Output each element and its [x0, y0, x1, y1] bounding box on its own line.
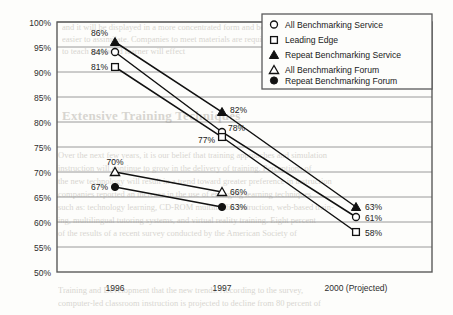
ytick-label-70: 70% [34, 168, 51, 178]
point-label-66: 66% [230, 187, 247, 197]
point-label-61: 61% [365, 213, 382, 223]
point-label-77: 77% [198, 135, 215, 145]
data-point-repeat-service-2000 [351, 203, 360, 211]
xtick-label-1996: 1996 [106, 283, 125, 293]
legend-label-leading-edge: Leading Edge [285, 35, 338, 45]
series-line-all-benchmarking-forum [115, 172, 222, 192]
data-point-repeat-forum-1997 [218, 203, 225, 210]
legend-marker-filled-circle-icon [270, 77, 277, 84]
data-point-leading-edge-1996 [112, 64, 119, 71]
xtick-label-1997: 1997 [213, 283, 232, 293]
data-point-all-service-2000 [353, 214, 360, 221]
ytick-label-90: 90% [34, 68, 51, 78]
chart-container: and it will be displayed in a more conce… [0, 0, 453, 315]
ytick-label-95: 95% [34, 43, 51, 53]
point-label-81: 81% [91, 62, 108, 72]
data-point-leading-edge-1997 [219, 134, 226, 141]
point-label-63-service: 63% [365, 202, 382, 212]
point-label-58: 58% [365, 228, 382, 238]
point-label-84: 84% [91, 47, 108, 57]
legend-label-all-benchmarking-service: All Benchmarking Service [285, 20, 383, 30]
legend-marker-open-circle-icon [271, 21, 278, 28]
ytick-label-55: 55% [34, 243, 51, 253]
line-chart: 100% 95% 90% 85% 80% 75% 70% 65% 60% 55%… [0, 0, 453, 315]
ytick-label-65: 65% [34, 193, 51, 203]
xtick-label-2000: 2000 (Projected) [325, 283, 388, 293]
data-point-all-service-1996 [112, 49, 119, 56]
ytick-label-80: 80% [34, 118, 51, 128]
data-point-repeat-service-1996 [110, 38, 119, 46]
data-point-repeat-forum-1996 [111, 183, 118, 190]
data-point-leading-edge-2000 [353, 229, 360, 236]
point-label-63-forum: 63% [230, 202, 247, 212]
ytick-label-100: 100% [29, 18, 51, 28]
legend-label-all-benchmarking-forum: All Benchmarking Forum [285, 65, 379, 75]
legend-label-repeat-benchmarking-forum: Repeat Benchmarking Forum [285, 76, 397, 86]
point-label-86: 86% [91, 28, 108, 38]
ytick-label-85: 85% [34, 93, 51, 103]
point-label-82: 82% [230, 105, 247, 115]
chart-legend: All Benchmarking Service Leading Edge Re… [262, 14, 432, 89]
data-point-repeat-service-1997 [217, 108, 226, 116]
point-label-78: 78% [228, 123, 245, 133]
point-label-70: 70% [106, 157, 123, 167]
legend-label-repeat-benchmarking-service: Repeat Benchmarking Service [285, 50, 401, 60]
data-point-all-forum-1996 [110, 168, 119, 176]
point-label-67: 67% [91, 182, 108, 192]
legend-marker-open-square-icon [271, 37, 278, 44]
ytick-label-50: 50% [34, 268, 51, 278]
ytick-label-75: 75% [34, 143, 51, 153]
ytick-label-60: 60% [34, 218, 51, 228]
